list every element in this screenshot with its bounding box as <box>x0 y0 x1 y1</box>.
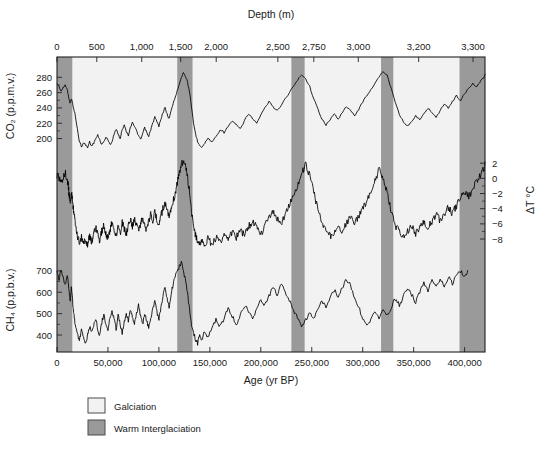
dt-tick-label: −4 <box>492 203 503 214</box>
top-tick-label: 3,300 <box>461 41 485 52</box>
ch4-axis-title: CH₄ (p.p.b.v.) <box>4 268 16 331</box>
bottom-axis-title: Age (yr BP) <box>244 374 298 386</box>
legend-swatch <box>88 398 105 413</box>
top-tick-label: 3,000 <box>346 41 370 52</box>
dt-axis-title: ΔT °C <box>524 186 536 214</box>
ch4-tick-label: 700 <box>36 265 52 276</box>
co2-axis-title: CO₂ (p.p.m.v.) <box>4 73 16 139</box>
top-tick-label: 1,500 <box>169 41 193 52</box>
ch4-tick-label: 500 <box>36 308 52 319</box>
bottom-tick-label: 100,000 <box>142 357 176 368</box>
vostok-ice-core-figure: Depth (m) Age (yr BP) 05001,0001,5002,00… <box>0 0 545 455</box>
top-tick-label: 1,000 <box>130 41 154 52</box>
bottom-tick-label: 150,000 <box>193 357 227 368</box>
dt-tick-label: −2 <box>492 188 503 199</box>
co2-tick-label: 220 <box>36 118 52 129</box>
bottom-tick-label: 350,000 <box>396 357 430 368</box>
top-axis-title: Depth (m) <box>248 8 295 20</box>
co2-tick-label: 200 <box>36 133 52 144</box>
ch4-tick-label: 400 <box>36 330 52 341</box>
bottom-tick-label: 400,000 <box>447 357 481 368</box>
top-tick-label: 500 <box>89 41 105 52</box>
bottom-tick-label: 250,000 <box>295 357 329 368</box>
legend-label: Galciation <box>114 401 156 412</box>
ch4-tick-label: 600 <box>36 287 52 298</box>
dt-tick-label: 0 <box>492 173 497 184</box>
interglacial-band <box>177 57 192 352</box>
dt-tick-label: 2 <box>492 158 497 169</box>
bottom-tick-label: 50,000 <box>93 357 122 368</box>
interglacial-band <box>291 57 304 352</box>
interglacial-band <box>57 57 72 352</box>
bottom-tick-label: 300,000 <box>346 357 380 368</box>
top-tick-label: 2,500 <box>266 41 290 52</box>
top-tick-label: 0 <box>54 41 59 52</box>
legend-swatch <box>88 420 105 435</box>
co2-tick-label: 240 <box>36 102 52 113</box>
interglacial-band <box>460 57 485 352</box>
top-tick-label: 3,200 <box>407 41 431 52</box>
dt-tick-label: −6 <box>492 218 503 229</box>
legend-label: Warm Interglaciation <box>114 423 201 434</box>
bottom-tick-label: 200,000 <box>244 357 278 368</box>
top-tick-label: 2,000 <box>204 41 228 52</box>
chart-canvas: Depth (m) Age (yr BP) 05001,0001,5002,00… <box>0 0 545 455</box>
co2-tick-label: 260 <box>36 87 52 98</box>
bottom-tick-label: 0 <box>54 357 59 368</box>
top-tick-label: 2,750 <box>302 41 326 52</box>
co2-tick-label: 280 <box>36 72 52 83</box>
dt-tick-label: −8 <box>492 234 503 245</box>
plot-background <box>57 57 485 352</box>
